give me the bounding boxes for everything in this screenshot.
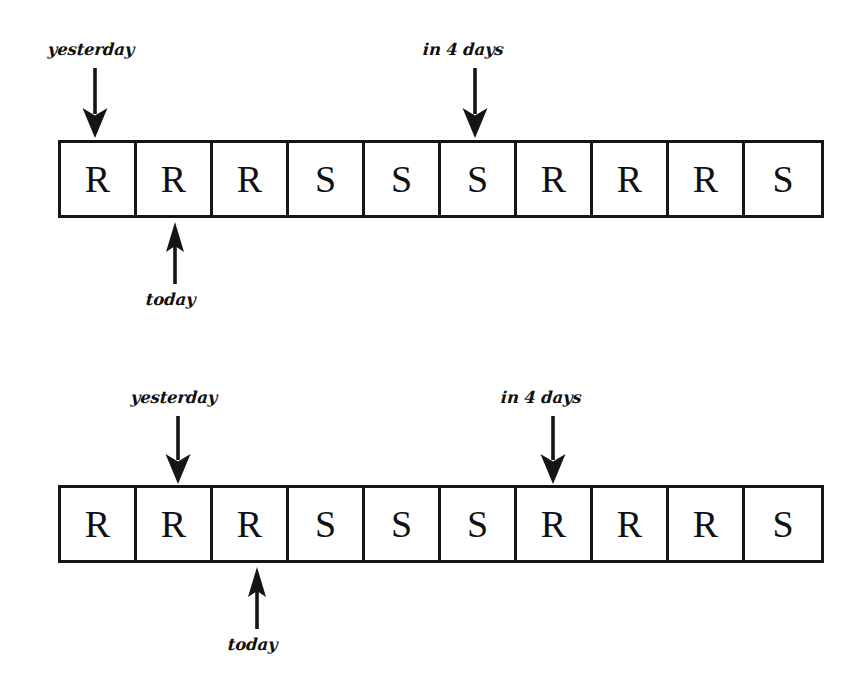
strip-top-cell-10: S	[745, 143, 821, 215]
strip-bottom-cell-1: R	[61, 488, 137, 560]
diagram-canvas: yesterday in 4 days R R R S S S R R R S …	[0, 0, 866, 694]
strip-top: R R R S S S R R R S	[58, 140, 824, 218]
label-in-4-days-bottom: in 4 days	[500, 388, 582, 407]
arrow-down-in-4-days-bottom	[537, 416, 569, 486]
strip-top-cell-6: S	[441, 143, 517, 215]
strip-bottom-cell-5: S	[365, 488, 441, 560]
strip-top-cell-8: R	[593, 143, 669, 215]
strip-bottom-cell-7: R	[517, 488, 593, 560]
strip-top-cell-5: S	[365, 143, 441, 215]
strip-bottom-cell-10: S	[745, 488, 821, 560]
label-yesterday-top: yesterday	[47, 40, 135, 59]
arrow-down-in-4-days-top	[459, 68, 491, 140]
arrow-down-yesterday-bottom	[162, 416, 194, 486]
strip-bottom-cell-6: S	[441, 488, 517, 560]
strip-top-cell-1: R	[61, 143, 137, 215]
arrow-up-today-top	[159, 222, 191, 284]
label-yesterday-bottom: yesterday	[130, 388, 218, 407]
label-in-4-days-top: in 4 days	[422, 40, 504, 59]
strip-top-cell-4: S	[289, 143, 365, 215]
label-today-top: today	[145, 290, 196, 309]
strip-top-cell-2: R	[137, 143, 213, 215]
strip-bottom-cell-9: R	[669, 488, 745, 560]
strip-bottom-cell-2: R	[137, 488, 213, 560]
strip-bottom-cell-3: R	[213, 488, 289, 560]
strip-top-cell-3: R	[213, 143, 289, 215]
strip-top-cell-9: R	[669, 143, 745, 215]
strip-bottom: R R R S S S R R R S	[58, 485, 824, 563]
strip-bottom-cell-4: S	[289, 488, 365, 560]
arrow-up-today-bottom	[241, 567, 273, 629]
arrow-down-yesterday-top	[79, 68, 111, 140]
strip-bottom-cell-8: R	[593, 488, 669, 560]
label-today-bottom: today	[227, 635, 278, 654]
strip-top-cell-7: R	[517, 143, 593, 215]
